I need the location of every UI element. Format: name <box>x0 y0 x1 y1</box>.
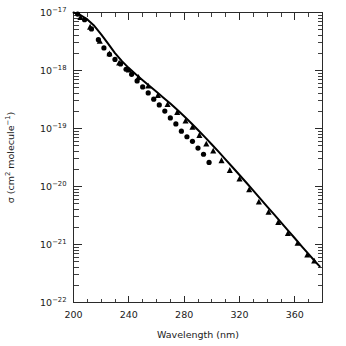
data-point-circle <box>206 160 211 165</box>
x-axis-title: Wavelength (nm) <box>157 329 239 340</box>
data-point-circle <box>157 102 162 107</box>
x-axis-title-text: Wavelength (nm) <box>157 329 239 340</box>
data-point-circle <box>190 139 195 144</box>
data-point-circle <box>75 11 80 16</box>
x-tick-label: 240 <box>120 309 138 320</box>
data-point-circle <box>146 90 151 95</box>
plot-background <box>0 0 346 346</box>
data-point-circle <box>179 129 184 134</box>
data-point-circle <box>140 84 145 89</box>
data-point-circle <box>101 45 106 50</box>
x-tick-label: 200 <box>64 309 82 320</box>
data-point-circle <box>162 108 167 113</box>
cross-section-plot: 200240280320360 10−1710−1810−1910−2010−2… <box>0 0 346 346</box>
x-tick-label: 360 <box>286 309 304 320</box>
data-point-circle <box>168 115 173 120</box>
data-point-circle <box>112 57 117 62</box>
data-point-circle <box>201 152 206 157</box>
data-point-circle <box>173 121 178 126</box>
data-point-circle <box>195 145 200 150</box>
data-point-circle <box>184 134 189 139</box>
x-tick-label: 280 <box>175 309 193 320</box>
x-tick-label: 320 <box>230 309 248 320</box>
figure-container: 200240280320360 10−1710−1810−1910−2010−2… <box>0 0 346 346</box>
